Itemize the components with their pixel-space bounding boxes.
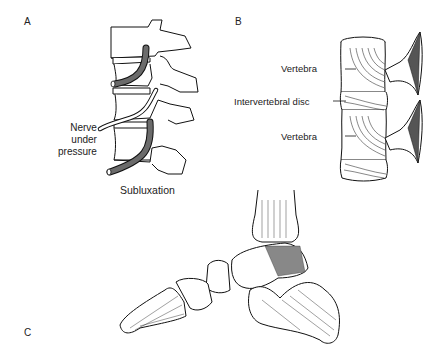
intervertebral-disc-label: Intervertebral disc xyxy=(234,96,310,107)
nerve-label-line-3: pressure xyxy=(58,146,97,158)
vertebra-label-top: Vertebra xyxy=(281,63,317,74)
vertebral-column-drawing xyxy=(333,32,422,181)
illustration-canvas xyxy=(0,0,445,360)
panel-letter-c: C xyxy=(24,327,31,338)
nerve-label-line-2: under xyxy=(58,134,97,146)
panel-letter-a: A xyxy=(24,16,31,27)
subluxation-caption: Subluxation xyxy=(120,185,175,196)
panel-letter-b: B xyxy=(235,16,242,27)
nerve-under-pressure-label: Nerve under pressure xyxy=(58,122,97,158)
vertebra-label-bottom: Vertebra xyxy=(281,131,317,142)
foot-bones-drawing xyxy=(120,190,339,343)
nerve-label-line-1: Nerve xyxy=(58,122,97,134)
